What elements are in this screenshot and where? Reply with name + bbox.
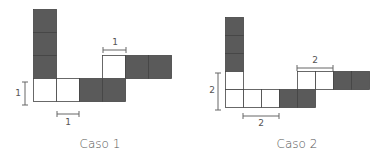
case-1-top-label: 1 [107,37,123,47]
case-2-bottom-label: 2 [253,118,269,128]
case-1-bottom-label: 1 [60,117,76,127]
case-1-vertical-label: 1 [14,88,22,98]
case-1-figure [34,10,172,102]
case-2-dimension-top [297,65,333,71]
shaded-square [80,79,103,102]
blank-square [244,90,262,108]
case-1-caption: Caso 1 [60,137,140,151]
shaded-square [226,36,244,54]
shaded-square [34,10,57,33]
case-2-caption: Caso 2 [257,137,337,151]
shaded-square [298,90,316,108]
shaded-square [149,56,172,79]
shaded-square [334,72,352,90]
blank-square [262,90,280,108]
shaded-square [226,18,244,36]
shaded-square [126,56,149,79]
case-1-dimension-vertical [22,82,28,105]
blank-square [226,90,244,108]
blank-square [57,79,80,102]
blank-square [226,72,244,90]
blank-square [316,72,334,90]
shaded-square [34,56,57,79]
case-2-top-label: 2 [307,55,323,65]
shaded-square [226,54,244,72]
blank-square [34,79,57,102]
case-2-figure [226,18,370,108]
shaded-square [34,33,57,56]
case-1-dimension-top [103,47,126,53]
shaded-square [280,90,298,108]
shaded-square [352,72,370,90]
shaded-square [103,79,126,102]
blank-square [298,72,316,90]
blank-square [103,56,126,79]
case-2-vertical-label: 2 [208,85,216,95]
